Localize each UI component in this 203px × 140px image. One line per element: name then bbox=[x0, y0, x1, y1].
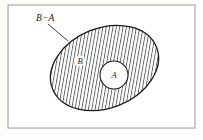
label-b-minus-a: B−A bbox=[36, 13, 55, 23]
diagram-canvas: B−A B A bbox=[0, 0, 203, 140]
label-set-a: A bbox=[110, 70, 117, 80]
set-difference-figure: B−A B A bbox=[0, 0, 203, 140]
label-set-b: B bbox=[77, 56, 82, 66]
